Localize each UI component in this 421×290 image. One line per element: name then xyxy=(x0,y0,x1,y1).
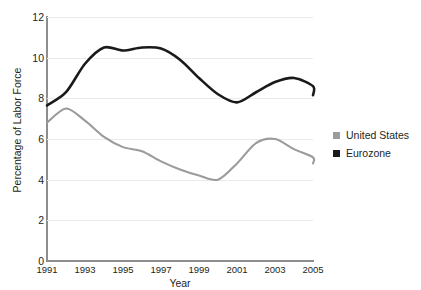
legend-swatch-eurozone xyxy=(333,150,340,157)
x-tick-2001: 2001 xyxy=(226,264,247,275)
line-united-states xyxy=(47,108,314,180)
x-tick-2005: 2005 xyxy=(302,264,323,275)
chart-container: 12 10 8 6 4 2 0 Percentage of Labor Forc… xyxy=(0,0,421,290)
x-tick-1999: 1999 xyxy=(188,264,209,275)
x-tick-1995: 1995 xyxy=(112,264,133,275)
y-tick-12: 12 xyxy=(4,11,44,23)
x-axis-label: Year xyxy=(47,277,313,289)
x-tick-2003: 2003 xyxy=(264,264,285,275)
x-tick-1993: 1993 xyxy=(74,264,95,275)
legend-item-united-states[interactable]: United States xyxy=(333,126,409,144)
series-layer xyxy=(47,17,313,261)
y-axis-label-text: Percentage of Labor Force xyxy=(11,68,23,193)
line-eurozone xyxy=(47,47,314,105)
x-tick-1997: 1997 xyxy=(150,264,171,275)
legend-label-united-states: United States xyxy=(346,129,409,141)
x-tick-1991: 1991 xyxy=(36,264,57,275)
y-axis-label: Percentage of Labor Force xyxy=(10,30,24,230)
plot-area xyxy=(47,17,313,261)
legend-swatch-united-states xyxy=(333,132,340,139)
legend-label-eurozone: Eurozone xyxy=(346,147,391,159)
legend-item-eurozone[interactable]: Eurozone xyxy=(333,144,409,162)
clipped-title xyxy=(0,0,421,6)
chart-legend: United States Eurozone xyxy=(333,126,409,162)
